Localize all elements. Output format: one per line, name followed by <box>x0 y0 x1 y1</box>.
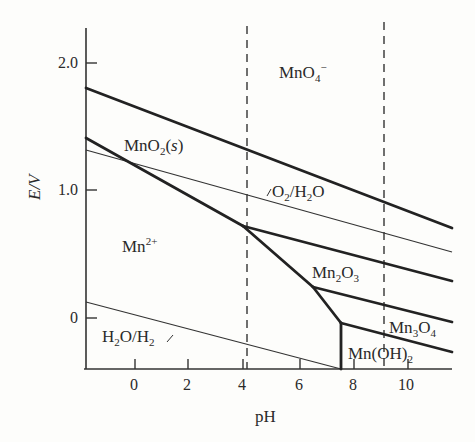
x-axis-title: pH <box>255 408 276 425</box>
region-label-mn3o4: Mn3O4 <box>389 319 436 339</box>
y-tick-label: 0 <box>38 310 78 326</box>
y-tick-label: 2.0 <box>38 55 78 71</box>
region-label-mn2o3: Mn2O3 <box>312 264 359 284</box>
x-tick-label: 0 <box>130 377 138 393</box>
x-tick-label: 4 <box>238 377 246 393</box>
label-o2-h2o: O2/H2O <box>272 183 325 203</box>
h2o-h2-leader <box>167 335 173 342</box>
o2-h2o-leader <box>267 189 271 196</box>
y-axis-title: E/V <box>26 175 43 201</box>
label-h2o-h2: H2O/H2 <box>102 328 155 348</box>
region-label-mn2plus: Mn2+ <box>122 236 157 255</box>
x-tick-label: 8 <box>349 377 357 393</box>
region-label-mnoh2: Mn(OH)2 <box>348 345 413 365</box>
x-tick-label: 2 <box>183 377 191 393</box>
region-label-mno4: MnO4− <box>279 62 327 84</box>
y-tick-label: 1.0 <box>38 182 78 198</box>
x-tick-label: 10 <box>398 377 414 393</box>
region-label-mno2: MnO2(s) <box>124 137 183 157</box>
x-tick-label: 6 <box>295 377 303 393</box>
